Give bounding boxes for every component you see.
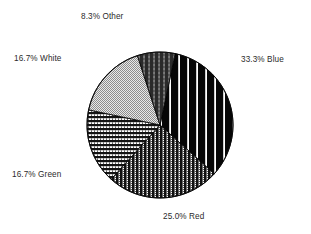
pie-label-other: 8.3% Other <box>81 12 123 22</box>
pie-label-blue: 33.3% Blue <box>241 55 284 65</box>
pie-label-green: 16.7% Green <box>12 170 61 180</box>
pie-label-white: 16.7% White <box>14 54 62 64</box>
pie-chart: 8.3% Other 33.3% Blue 16.7% White 16.7% … <box>0 0 311 234</box>
pie-chart-canvas <box>0 0 311 234</box>
pie-label-red: 25.0% Red <box>163 212 204 222</box>
